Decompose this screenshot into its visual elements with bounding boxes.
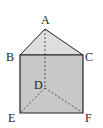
label-d: D xyxy=(34,78,43,92)
label-f: F xyxy=(85,111,92,125)
label-b: B xyxy=(6,50,14,64)
label-e: E xyxy=(8,111,15,125)
prism-diagram: A B C D E F xyxy=(0,0,103,128)
label-c: C xyxy=(85,50,93,64)
face-abc xyxy=(20,29,83,55)
label-a: A xyxy=(41,13,50,27)
face-bcfe xyxy=(20,55,83,113)
